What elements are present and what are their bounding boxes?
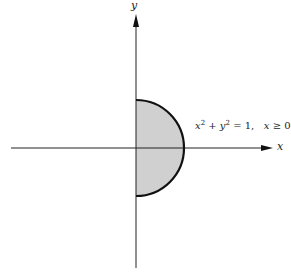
y-axis-arrowhead-icon [133, 14, 139, 27]
eq-condition: ≥ 0 [269, 120, 290, 131]
x-axis-label: x [277, 140, 283, 153]
x-axis-arrowhead-icon [261, 145, 273, 151]
diagram-svg [0, 0, 291, 277]
eq-equals-one: = 1, [230, 120, 264, 131]
equation-annotation: x2 + y2 = 1, x ≥ 0 [195, 119, 291, 131]
diagram-canvas: y x x2 + y2 = 1, x ≥ 0 [0, 0, 291, 277]
y-axis-label: y [131, 0, 137, 12]
eq-plus: + [205, 120, 220, 131]
